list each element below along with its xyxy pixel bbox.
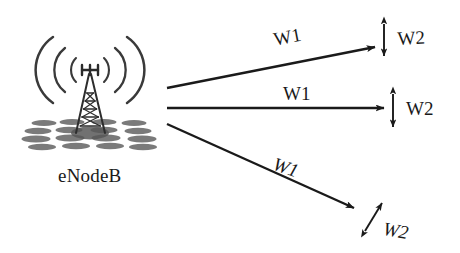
beam-label-top: W1 (272, 25, 303, 49)
antenna-head-icon (82, 65, 98, 75)
beam-arrow-bottom (167, 124, 354, 208)
beam-label-middle: W1 (283, 84, 310, 103)
spacing-label-bottom: W2 (382, 219, 410, 242)
spacing-arrow-bottom (365, 203, 382, 231)
beam-arrow-top (167, 47, 375, 88)
ground-plane-icon (22, 119, 158, 150)
station-label: eNodeB (58, 166, 121, 185)
spacing-label-top: W2 (397, 28, 425, 48)
diagram-graphics (0, 0, 460, 253)
diagram-canvas: W1 W2 W1 W2 W1 W2 eNodeB (0, 0, 460, 253)
spacing-label-middle: W2 (406, 99, 433, 118)
